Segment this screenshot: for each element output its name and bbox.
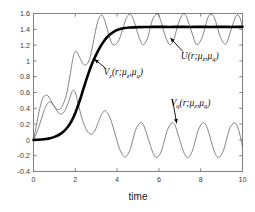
x-tick-label: 0	[32, 175, 36, 184]
x-tick-label: 2	[73, 175, 77, 184]
annotation-arrowhead-Vq	[174, 119, 178, 123]
y-tick-label: 0.8	[20, 72, 30, 81]
x-tick-label: 4	[115, 175, 119, 184]
x-tick-label: 10	[239, 175, 247, 184]
y-tick-label: 1.2	[20, 41, 30, 50]
annotation-label-Vq: Vq(r;μz,μq)	[170, 98, 210, 109]
axis-tick-labels: 0246810-0.4-0.200.20.40.60.811.21.41.6	[18, 9, 247, 183]
y-tick-label: -0.4	[18, 167, 30, 176]
chart-figure: 0246810-0.4-0.200.20.40.60.811.21.41.6 U…	[0, 0, 255, 212]
curve-annotations: U(r;μz,μq)Vz(r;μz,μq)Vq(r;μz,μq)	[95, 38, 219, 123]
y-tick-label: 1	[26, 57, 30, 66]
y-tick-label: 0.6	[20, 88, 30, 97]
annotation-label-Vz: Vz(r;μz,μq)	[104, 67, 143, 78]
x-axis-label: time	[129, 191, 148, 202]
y-tick-label: 1.4	[20, 25, 30, 34]
y-tick-label: 1.6	[20, 9, 30, 18]
y-tick-label: 0.4	[20, 104, 30, 113]
data-curves	[34, 14, 243, 158]
x-tick-label: 8	[199, 175, 203, 184]
y-tick-label: 0	[26, 136, 30, 145]
axis-ticks	[34, 14, 243, 172]
y-tick-label: -0.2	[18, 151, 30, 160]
chart-svg: 0246810-0.4-0.200.20.40.60.811.21.41.6 U…	[0, 0, 255, 212]
x-tick-label: 6	[157, 175, 161, 184]
annotation-label-U: U(r;μz,μq)	[181, 51, 219, 62]
series-line-Urzq	[34, 27, 243, 140]
y-tick-label: 0.2	[20, 120, 30, 129]
axes-frame	[34, 14, 243, 172]
